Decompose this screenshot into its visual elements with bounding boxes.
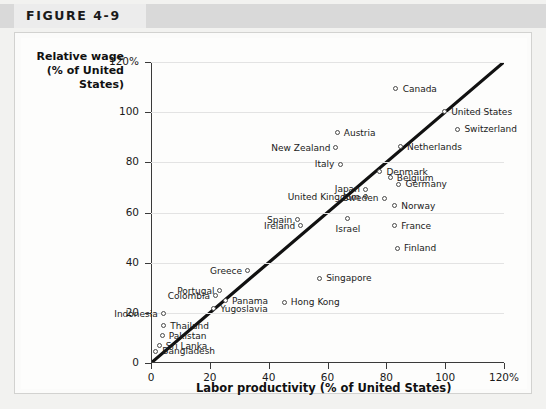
x-axis-tick [386,363,387,369]
data-point [317,276,322,281]
data-point-label: United States [451,107,512,117]
data-point [382,196,387,201]
gridline-y [151,62,504,63]
y-axis-tick [145,112,151,113]
data-point-label: Norway [401,201,435,211]
data-point [211,306,216,311]
y-axis-tick-label: 80 [93,155,139,167]
data-point-label: New Zealand [271,143,330,153]
data-point [363,187,368,192]
y-axis-tick [145,62,151,63]
data-point [338,162,343,167]
y-axis-tick-label: 60 [93,206,139,218]
x-axis-tick-label: 20 [187,371,233,383]
data-point-label: Indonesia [114,309,158,319]
data-point [161,311,166,316]
y-axis-tick [145,162,151,163]
data-point [455,127,460,132]
x-axis-tick-label: 60 [305,371,351,383]
x-axis-tick [328,363,329,369]
y-axis-tick-label: 100 [93,105,139,117]
data-point [295,217,300,222]
data-point-label: Hong Kong [291,297,340,307]
gridline-y [151,213,504,214]
data-point-label: Italy [315,159,335,169]
x-axis-tick [210,363,211,369]
data-point-label: Greece [210,266,242,276]
x-axis-tick [269,363,270,369]
data-point-label: France [401,221,431,231]
x-axis-tick-label: 40 [246,371,292,383]
data-point [398,144,403,149]
data-point-label: Thailand [170,321,209,331]
data-point [298,223,303,228]
y-axis-tick [145,213,151,214]
data-point [395,246,400,251]
data-point-label: Singapore [326,273,371,283]
data-point-label: Yugoslavia [220,304,267,314]
x-axis-tick [151,363,152,369]
x-axis-tick-label: 0 [128,371,174,383]
data-point-label: Bangladesh [162,346,215,356]
x-axis-tick [445,363,446,369]
x-axis-title: Labor productivity (% of United States) [196,381,451,395]
data-point-label: Germany [406,179,447,189]
data-point [282,300,287,305]
gridline-y [151,313,504,314]
y-axis-tick-label: 120% [93,55,139,67]
data-point-label: Netherlands [407,142,462,152]
x-axis-tick [504,363,505,369]
data-point-label: Sweden [343,193,379,203]
data-point-label: Austria [344,128,376,138]
data-point-label: Canada [403,84,437,94]
x-axis-tick-label: 80 [363,371,409,383]
data-point [213,293,218,298]
gridline-y [151,263,504,264]
scatter-plot-area: 020406080100120%020406080100120%CanadaUn… [151,62,504,363]
data-point [442,109,447,114]
data-point-label: Colombia [168,291,210,301]
x-axis-tick-label: 120% [481,371,527,383]
y-axis-tick [145,263,151,264]
data-point-label: Pakistan [169,331,207,341]
data-point [153,349,158,354]
y-axis-tick-label: 0 [93,356,139,368]
data-point [335,130,340,135]
data-point [392,203,397,208]
data-point [345,216,350,221]
data-point-label: Ireland [264,221,295,231]
data-point-label: Israel [336,224,361,234]
figure-tag-label: FIGURE 4-9 [26,8,121,23]
y-axis-tick-label: 40 [93,256,139,268]
figure-page: FIGURE 4-9 Relative wage (% of United St… [0,0,546,409]
y-axis-title-line-3: States) [18,78,124,92]
data-point-label: Finland [404,243,436,253]
data-point-label: Switzerland [464,124,517,134]
x-axis-tick-label: 100 [422,371,468,383]
